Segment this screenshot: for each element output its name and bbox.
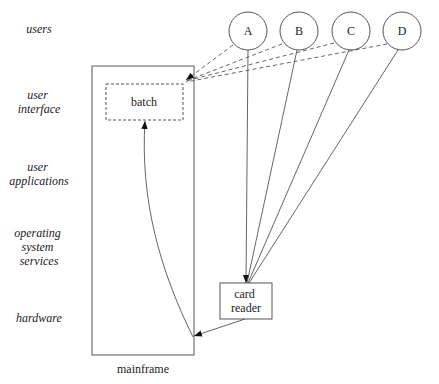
svg-text:C: C [347,24,355,38]
layer-label-users: users [26,22,52,36]
user-node-a: A [229,12,267,50]
mainframe-label: mainframe [117,362,169,376]
edge-mainframe-to-batch [144,121,193,337]
edge-card-reader-to-mainframe [194,319,245,336]
svg-text:D: D [398,24,407,38]
solid-edges-to-card-reader [246,50,398,283]
card-reader-label: card reader [231,287,261,315]
user-node-d: D [383,12,421,50]
svg-text:A: A [244,24,253,38]
batch-label: batch [131,95,157,109]
diagram-canvas: users user interface user applications o… [0,0,439,384]
layer-label-hardware: hardware [16,311,62,325]
mainframe-box [92,66,194,355]
svg-text:B: B [295,24,303,38]
user-node-b: B [280,12,318,50]
user-node-c: C [332,12,370,50]
layer-label-user-interface: user interface [18,88,61,116]
layer-label-operating-system-services: operating system services [14,226,64,268]
layer-label-user-applications: user applications [9,160,69,188]
